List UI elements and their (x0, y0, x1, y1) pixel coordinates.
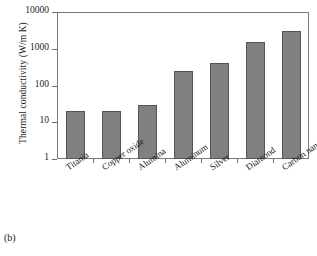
x-tick-mark (165, 159, 166, 163)
bar (210, 63, 229, 159)
y-tick-label: 10 (40, 115, 50, 125)
x-tick-mark (201, 159, 202, 163)
bar-series (57, 12, 309, 159)
y-tick: 1 (0, 159, 57, 160)
y-tick-label: 10000 (25, 5, 49, 15)
y-tick-label: 1 (44, 152, 49, 162)
panel-caption: (b) (4, 232, 16, 243)
y-tick-mark (52, 159, 57, 160)
y-tick: 100 (0, 86, 57, 87)
bar (282, 31, 301, 159)
figure-panel-b: Thermal conductivity (W/m K) 10000100010… (0, 0, 317, 256)
y-tick-label: 1000 (30, 42, 49, 52)
y-tick: 10000 (0, 12, 57, 13)
x-tick-mark (93, 159, 94, 163)
y-tick: 10 (0, 122, 57, 123)
x-tick-mark (129, 159, 130, 163)
y-tick-label: 100 (35, 79, 49, 89)
x-tick-mark (237, 159, 238, 163)
y-tick: 1000 (0, 49, 57, 50)
y-axis-title: Thermal conductivity (W/m K) (18, 0, 28, 168)
bar (246, 42, 265, 159)
x-tick-mark (273, 159, 274, 163)
bar (174, 71, 193, 159)
